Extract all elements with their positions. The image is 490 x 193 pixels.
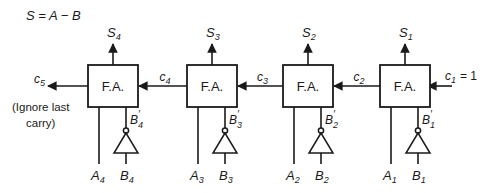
carry-label: c2: [354, 70, 365, 86]
full-adder-label: F.A.: [201, 79, 223, 94]
full-adder-label: F.A.: [297, 79, 319, 94]
carry-out-label: c5: [34, 72, 46, 88]
inverter-triangle-icon: [406, 133, 430, 153]
a-input-label: A1: [382, 168, 397, 185]
inverter-triangle-icon: [213, 133, 237, 153]
b-input-label: B1: [412, 168, 426, 185]
a-input-label: A2: [285, 168, 300, 185]
b-complement-label: B2′: [325, 109, 338, 130]
full-adder-label: F.A.: [394, 79, 416, 94]
a-input-label: A3: [189, 168, 204, 185]
ignore-note-line2: carry): [26, 117, 56, 129]
full-adder-stage: F.A.S1A1B1′B1: [380, 25, 435, 185]
subtractor-diagram: S = A − B c5 (Ignore last carry) c1= 1 F…: [0, 0, 490, 193]
carry-label: c3: [257, 70, 268, 86]
b-input-label: B2: [315, 168, 329, 185]
full-adder-stage: F.A.S3c3A3B3′B3: [187, 25, 283, 185]
carry-label: c4: [160, 70, 171, 86]
carry-in-label: c1= 1: [445, 69, 477, 85]
b-complement-label: B4′: [130, 109, 143, 130]
full-adder-label: F.A.: [102, 79, 124, 94]
a-input-label: A4: [90, 168, 105, 185]
sum-label: S4: [107, 25, 121, 42]
equation-label: S = A − B: [26, 8, 81, 23]
full-adder-stage: F.A.S2c2A2B2′B2: [283, 25, 380, 185]
ignore-note-line1: (Ignore last: [12, 101, 70, 113]
b-input-label: B4: [120, 168, 134, 185]
full-adder-stage: F.A.S4c4A4B4′B4: [88, 25, 187, 185]
sum-label: S3: [206, 25, 220, 42]
b-input-label: B3: [219, 168, 233, 185]
b-complement-label: B1′: [422, 109, 435, 130]
b-complement-label: B3′: [229, 109, 242, 130]
inverter-triangle-icon: [114, 133, 138, 153]
sum-label: S1: [399, 25, 413, 42]
sum-label: S2: [302, 25, 316, 42]
inverter-triangle-icon: [309, 133, 333, 153]
